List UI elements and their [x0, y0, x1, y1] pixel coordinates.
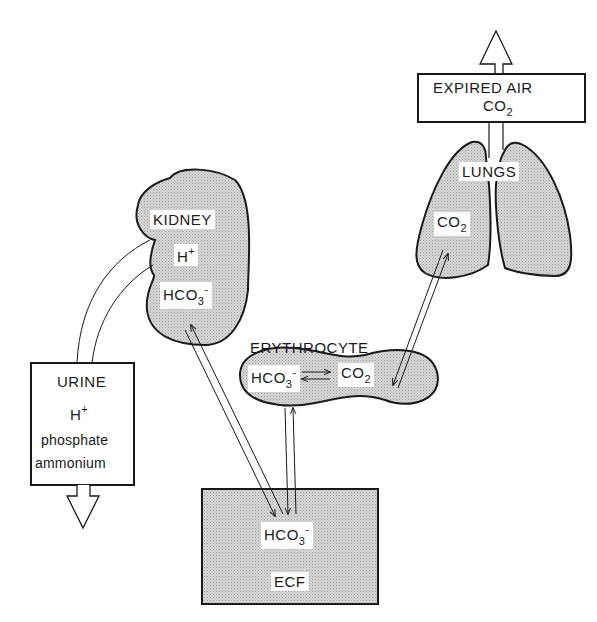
urine-out-arrow-icon	[67, 485, 99, 528]
kidney-bicarbonate: HCO3-	[160, 282, 212, 309]
erythrocyte-bicarbonate: HCO3-	[248, 365, 300, 392]
expired-air-title: EXPIRED AIR	[433, 80, 533, 95]
erythrocyte-co2: CO2	[338, 363, 374, 387]
expired-air-co2: CO2	[483, 98, 513, 118]
kidney-h-plus: H+	[174, 244, 198, 266]
kidney-title: KIDNEY	[150, 210, 215, 229]
expired-air-out-arrow-icon	[459, 30, 512, 74]
urine-ammonium: ammonium	[35, 456, 106, 470]
ecf-title: ECF	[271, 572, 309, 591]
urine-phosphate: phosphate	[41, 433, 108, 447]
lungs-co2: CO2	[434, 212, 470, 236]
urine-title: URINE	[57, 374, 106, 389]
erythrocyte-title: ERYTHROCYTE	[250, 340, 369, 355]
ecf-bicarbonate: HCO3-	[261, 522, 313, 549]
urine-h-plus: H+	[70, 404, 88, 422]
lungs-title: LUNGS	[459, 162, 519, 181]
